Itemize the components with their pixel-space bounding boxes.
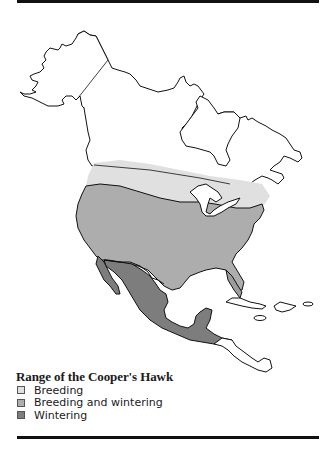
jamaica bbox=[254, 316, 266, 321]
legend-title: Range of the Cooper's Hawk bbox=[16, 369, 173, 384]
hispaniola bbox=[274, 302, 296, 312]
map-legend: Range of the Cooper's Hawk Breeding Bree… bbox=[16, 369, 173, 422]
cuba bbox=[226, 298, 266, 309]
legend-label: Breeding bbox=[34, 384, 83, 397]
legend-item-breeding: Breeding bbox=[16, 384, 173, 397]
legend-label: Breeding and wintering bbox=[34, 396, 163, 409]
bottom-rule bbox=[17, 436, 319, 439]
breeding-wintering-swatch-icon bbox=[17, 399, 25, 407]
legend-item-wintering: Wintering bbox=[16, 409, 173, 422]
central-america bbox=[214, 338, 272, 372]
wintering-swatch-icon bbox=[17, 411, 25, 419]
breeding-swatch-icon bbox=[17, 386, 25, 394]
legend-item-breeding-wintering: Breeding and wintering bbox=[16, 397, 173, 410]
legend-label: Wintering bbox=[34, 409, 87, 422]
puerto-rico bbox=[303, 302, 313, 306]
